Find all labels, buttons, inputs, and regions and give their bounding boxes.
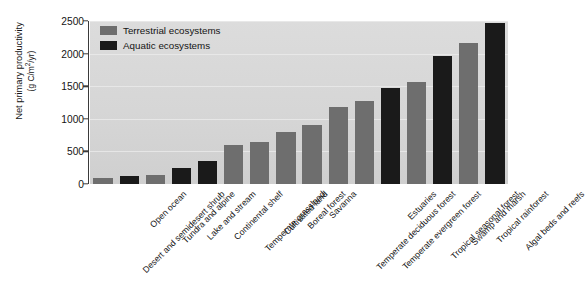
x-axis-tick-label: Open ocean (148, 189, 189, 230)
bar[interactable] (198, 161, 217, 184)
bar[interactable] (433, 56, 452, 184)
y-axis-tick-labels: 05001000150020002500 (52, 0, 84, 305)
y-axis-tick-mark (83, 151, 88, 152)
legend-item-aquatic[interactable]: Aquatic ecosystems (100, 39, 220, 52)
y-axis-tick-mark (83, 183, 88, 184)
bar[interactable] (407, 82, 426, 184)
y-axis-tick-label: 2000 (54, 48, 84, 59)
legend-label-aquatic: Aquatic ecosystems (123, 40, 210, 51)
y-axis-tick-label: 500 (54, 146, 84, 157)
y-axis-title-line2: (g C/m2/yr) (25, 0, 37, 144)
legend-item-terrestrial[interactable]: Terrestrial ecosystems (100, 24, 220, 37)
y-axis-tick-mark (83, 20, 88, 21)
bar[interactable] (485, 23, 504, 184)
bar[interactable] (250, 142, 269, 184)
y-axis-tick-mark (83, 85, 88, 86)
y-axis-tick-mark (83, 118, 88, 119)
y-axis-tick-label: 0 (54, 179, 84, 190)
legend-swatch-terrestrial (100, 26, 117, 35)
bar[interactable] (172, 168, 191, 184)
bar[interactable] (93, 178, 112, 184)
bar[interactable] (224, 145, 243, 184)
bar[interactable] (459, 43, 478, 184)
y-axis-tick-label: 1500 (54, 81, 84, 92)
y-axis-title: Net primary productivity (g C/m2/yr) (14, 0, 44, 144)
bar[interactable] (146, 175, 165, 184)
bar[interactable] (276, 132, 295, 184)
bar[interactable] (381, 88, 400, 184)
bar[interactable] (302, 125, 321, 184)
bar[interactable] (355, 101, 374, 184)
bar[interactable] (120, 176, 139, 184)
y-axis-units-prefix: (g C/m (25, 66, 35, 91)
y-axis-units-suffix: /yr) (25, 51, 35, 63)
legend-swatch-aquatic (100, 41, 117, 50)
y-axis-tick-mark (83, 53, 88, 54)
legend: Terrestrial ecosystemsAquatic ecosystems (100, 24, 220, 52)
legend-label-terrestrial: Terrestrial ecosystems (123, 25, 220, 36)
y-axis-tick-label: 1000 (54, 113, 84, 124)
y-axis-tick-label: 2500 (54, 16, 84, 27)
y-axis-title-line1: Net primary productivity (14, 0, 26, 144)
y-axis-units-superscript: 2 (23, 63, 30, 67)
bar[interactable] (329, 107, 348, 184)
